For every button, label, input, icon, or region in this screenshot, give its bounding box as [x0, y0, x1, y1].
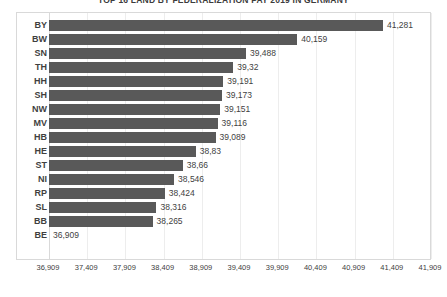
- bar-value-label: 39,089: [220, 131, 246, 144]
- x-tick-label: 38,909: [189, 262, 212, 274]
- category-label: HH: [17, 75, 47, 88]
- category-label: NW: [17, 103, 47, 116]
- category-label: HE: [17, 145, 47, 158]
- bar-row: SN39,488: [17, 47, 430, 60]
- bar-row: BY41,281: [17, 19, 430, 32]
- category-label: TH: [17, 61, 47, 74]
- bar: [49, 62, 233, 73]
- bar-value-label: 36,909: [53, 229, 79, 242]
- x-tick-label: 38,409: [151, 262, 174, 274]
- category-label: MV: [17, 117, 47, 130]
- category-label: BE: [17, 229, 47, 242]
- bar-row: HB39,089: [17, 131, 430, 144]
- bar-row: ST38,66: [17, 159, 430, 172]
- bar: [49, 202, 156, 213]
- x-tick-label: 36,909: [37, 262, 60, 274]
- x-tick-label: 39,909: [266, 262, 289, 274]
- category-label: SN: [17, 47, 47, 60]
- bar: [49, 20, 383, 31]
- bar-chart: TOP 16 LAND BY FEDERALIZATION PAY 2019 I…: [0, 0, 447, 297]
- bar: [49, 188, 165, 199]
- bar-row: BB38,265: [17, 215, 430, 228]
- bar: [49, 146, 196, 157]
- x-tick-label: 41,409: [380, 262, 403, 274]
- bar-row: NW39,151: [17, 103, 430, 116]
- bar-rows: BY41,281BW40,159SN39,488TH39,32HH39,191S…: [17, 13, 430, 259]
- bar-value-label: 40,159: [301, 33, 327, 46]
- bar-value-label: 39,32: [237, 61, 258, 74]
- bar-row: BE36,909: [17, 229, 430, 242]
- category-label: RP: [17, 187, 47, 200]
- bar: [49, 132, 216, 143]
- category-label: ST: [17, 159, 47, 172]
- bar: [49, 118, 218, 129]
- bar: [49, 34, 297, 45]
- plot-area: BY41,281BW40,159SN39,488TH39,32HH39,191S…: [16, 12, 431, 260]
- bar-value-label: 38,546: [178, 173, 204, 186]
- bar-value-label: 39,488: [250, 47, 276, 60]
- bar-value-label: 41,281: [387, 19, 413, 32]
- bar-row: MV39,116: [17, 117, 430, 130]
- bar-value-label: 38,83: [200, 145, 221, 158]
- x-tick-label: 37,909: [113, 262, 136, 274]
- bar: [49, 174, 174, 185]
- bar-value-label: 38,424: [169, 187, 195, 200]
- x-tick-label: 40,909: [342, 262, 365, 274]
- bar-value-label: 39,173: [226, 89, 252, 102]
- x-axis: 36,90937,40937,90938,40938,90939,40939,9…: [16, 262, 431, 278]
- bar-row: NI38,546: [17, 173, 430, 186]
- bar: [49, 90, 222, 101]
- bar: [49, 76, 223, 87]
- chart-title: TOP 16 LAND BY FEDERALIZATION PAY 2019 I…: [0, 0, 447, 5]
- bar-value-label: 39,151: [224, 103, 250, 116]
- bar-row: RP38,424: [17, 187, 430, 200]
- bar-row: TH39,32: [17, 61, 430, 74]
- category-label: BW: [17, 33, 47, 46]
- x-tick-label: 37,409: [75, 262, 98, 274]
- x-tick-label: 41,909: [419, 262, 442, 274]
- bar-value-label: 38,66: [187, 159, 208, 172]
- category-label: SL: [17, 201, 47, 214]
- x-tick-label: 40,409: [304, 262, 327, 274]
- bar-value-label: 39,116: [222, 117, 247, 130]
- bar-row: HH39,191: [17, 75, 430, 88]
- bar: [49, 48, 246, 59]
- category-label: BB: [17, 215, 47, 228]
- category-label: HB: [17, 131, 47, 144]
- gridline: [431, 13, 432, 259]
- x-tick-label: 39,409: [228, 262, 251, 274]
- category-label: SH: [17, 89, 47, 102]
- bar-value-label: 38,265: [157, 215, 183, 228]
- bar-value-label: 39,191: [227, 75, 253, 88]
- bar: [49, 104, 220, 115]
- category-label: BY: [17, 19, 47, 32]
- category-label: NI: [17, 173, 47, 186]
- bar-row: BW40,159: [17, 33, 430, 46]
- bar: [49, 216, 153, 227]
- bar-row: SL38,316: [17, 201, 430, 214]
- bar-row: HE38,83: [17, 145, 430, 158]
- bar-row: SH39,173: [17, 89, 430, 102]
- bar-value-label: 38,316: [160, 201, 186, 214]
- bar: [49, 160, 183, 171]
